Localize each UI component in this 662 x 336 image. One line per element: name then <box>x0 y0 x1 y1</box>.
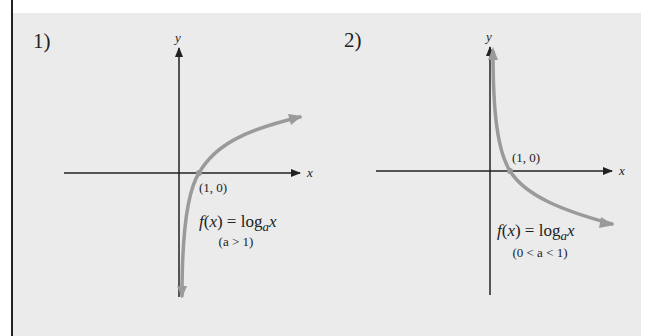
graph-2-condition: (0 < a < 1) <box>512 245 567 260</box>
graph-2: 2) x y (1, 0) f(x) = logax (0 < a < 1) <box>344 28 625 295</box>
graph-1-point-1-0 <box>196 170 202 176</box>
graph-1-curve <box>182 117 300 296</box>
graph-1-point-label: (1, 0) <box>199 180 227 195</box>
graph-1-label: 1) <box>33 29 51 53</box>
graph-2-x-label: x <box>618 163 625 178</box>
graph-1: 1) x y (1, 0) f(x) = logax (a > 1) <box>33 29 313 298</box>
graph-2-label: 2) <box>344 28 362 52</box>
graph-1-y-label: y <box>173 30 181 45</box>
graph-2-y-label: y <box>484 29 492 44</box>
graph-2-point-label: (1, 0) <box>512 150 540 165</box>
graph-2-point-1-0 <box>507 168 513 174</box>
graph-1-x-label: x <box>306 165 313 180</box>
graph-2-curve <box>493 52 612 224</box>
graph-2-function-label: f(x) = logax <box>497 221 575 243</box>
graph-1-condition: (a > 1) <box>219 234 254 249</box>
log-function-graphs: 1) x y (1, 0) f(x) = logax (a > 1) 2) x … <box>0 0 662 336</box>
graph-1-function-label: f(x) = logax <box>199 212 277 234</box>
